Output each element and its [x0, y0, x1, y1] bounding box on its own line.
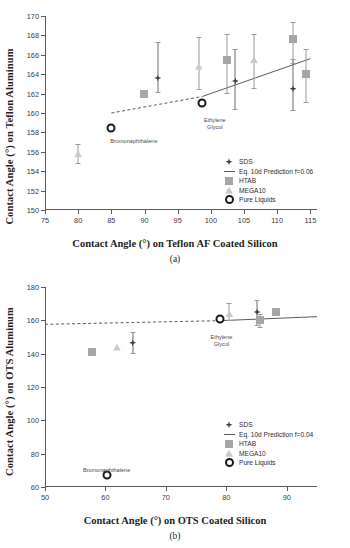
error-bar-cap	[303, 102, 308, 103]
data-point-htab	[272, 308, 280, 316]
y-tick	[41, 354, 45, 355]
y-tick	[41, 16, 45, 17]
legend-item-htab: HTAB	[222, 176, 313, 186]
square-marker-icon	[222, 177, 236, 185]
legend-item-pure-liquids: Pure Liquids	[222, 195, 313, 205]
x-tick-label: 95	[174, 216, 182, 225]
y-tick	[41, 420, 45, 421]
legend-label: MEGA10	[239, 450, 266, 457]
x-tick-label: 110	[271, 216, 283, 225]
legend-item-eq-10d-prediction-f-0-06: Eq. 10d Prediction f=0.06	[222, 167, 313, 177]
error-bar-cap	[251, 88, 256, 89]
panel-a-caption: (a)	[0, 254, 350, 264]
x-tick-label: 90	[140, 216, 148, 225]
y-tick-label: 100	[27, 416, 39, 425]
panel-a-y-axis-title: Contact Angle (°) on Teflon Aluminum	[0, 0, 19, 272]
trend-line	[202, 59, 310, 97]
legend-item-sds: SDS	[222, 157, 313, 167]
error-bar-cap	[76, 163, 81, 164]
x-tick	[178, 210, 179, 214]
line-swatch-icon	[222, 434, 236, 435]
legend-item-htab: HTAB	[222, 439, 313, 449]
panel-b-legend: SDSEq. 10d Prediction f=0.04HTABMEGA10Pu…	[222, 420, 313, 468]
x-tick	[45, 210, 46, 214]
triangle-marker-icon	[222, 187, 236, 194]
error-bar-cap	[224, 93, 229, 94]
x-tick	[111, 210, 112, 214]
x-tick	[145, 210, 146, 214]
error-bar-cap	[291, 110, 296, 111]
x-tick	[244, 210, 245, 214]
error-bar-cap	[196, 89, 201, 90]
trend-line	[45, 321, 220, 325]
x-tick-label: 90	[283, 493, 291, 502]
error-bar-cap	[291, 22, 296, 23]
diamond-marker-icon	[222, 421, 236, 428]
y-tick	[41, 387, 45, 388]
diamond-marker-icon	[222, 158, 236, 165]
y-tick	[41, 74, 45, 75]
legend-label: MEGA10	[239, 187, 266, 194]
panel-b: Contact Angle (°) on OTS Aluminum 608010…	[0, 272, 350, 548]
y-tick-label: 156	[27, 147, 39, 156]
x-tick-label: 50	[41, 493, 49, 502]
error-bar-cap	[76, 144, 81, 145]
x-tick-label: 115	[304, 216, 316, 225]
x-tick-label: 85	[107, 216, 115, 225]
y-tick	[41, 287, 45, 288]
error-bar-cap	[155, 42, 160, 43]
data-point-htab	[223, 56, 231, 64]
annotation-label: EthyleneGlycol	[204, 117, 226, 131]
panel-b-y-axis-title: Contact Angle (°) on OTS Aluminum	[0, 276, 19, 506]
x-tick	[78, 210, 79, 214]
y-tick-label: 160	[27, 316, 39, 325]
x-tick	[287, 487, 288, 491]
x-tick-label: 105	[238, 216, 250, 225]
triangle-marker-icon	[222, 450, 236, 457]
x-tick	[166, 487, 167, 491]
y-tick-label: 160	[27, 109, 39, 118]
x-tick-label: 100	[205, 216, 217, 225]
legend-label: Pure Liquids	[239, 459, 276, 466]
error-bar-cap	[233, 109, 238, 110]
y-tick-label: 154	[27, 167, 39, 176]
y-tick	[41, 454, 45, 455]
circle-open-marker-icon	[222, 195, 236, 204]
annotation-label: Bromonaphthalene	[110, 138, 157, 145]
error-bar-cap	[224, 34, 229, 35]
y-tick	[41, 35, 45, 36]
legend-label: Eq. 10d Prediction f=0.06	[239, 168, 313, 175]
annotation-label: EthyleneGlycol	[211, 334, 233, 348]
error-bar-cap	[130, 332, 135, 333]
y-tick	[41, 320, 45, 321]
error-bar-cap	[155, 92, 160, 93]
square-marker-icon	[222, 440, 236, 448]
y-tick-label: 150	[27, 206, 39, 215]
y-tick	[41, 152, 45, 153]
y-tick	[41, 113, 45, 114]
panel-b-x-axis-title: Contact Angle (°) on OTS Coated Silicon	[0, 515, 350, 526]
legend-label: HTAB	[239, 440, 256, 447]
error-bar-cap	[303, 49, 308, 50]
x-tick-label: 80	[222, 493, 230, 502]
data-point-pure-liquids	[198, 99, 207, 108]
y-tick-label: 152	[27, 186, 39, 195]
x-tick-label: 75	[41, 216, 49, 225]
x-tick-label: 70	[162, 493, 170, 502]
legend-item-eq-10d-prediction-f-0-04: Eq. 10d Prediction f=0.04	[222, 430, 313, 440]
x-tick	[45, 487, 46, 491]
y-tick-label: 166	[27, 50, 39, 59]
y-tick-label: 164	[27, 70, 39, 79]
y-tick	[41, 55, 45, 56]
y-tick	[41, 191, 45, 192]
trend-line	[220, 317, 317, 321]
x-tick	[105, 487, 106, 491]
y-tick-label: 170	[27, 12, 39, 21]
y-tick-label: 158	[27, 128, 39, 137]
legend-item-mega10: MEGA10	[222, 449, 313, 459]
line-swatch-icon	[222, 171, 236, 172]
x-tick-label: 60	[101, 493, 109, 502]
data-point-htab	[140, 90, 148, 98]
x-tick	[211, 210, 212, 214]
x-tick	[277, 210, 278, 214]
